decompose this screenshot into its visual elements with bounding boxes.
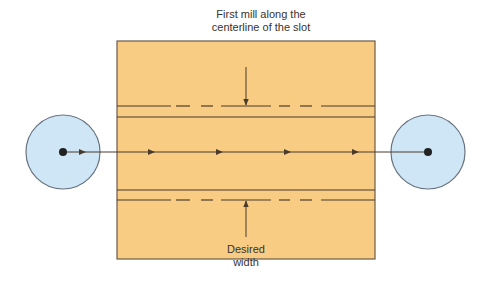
centerline-annotation-line2: centerline of the slot	[196, 21, 326, 34]
desired-width-annotation-line2: width	[216, 256, 276, 269]
centerline-annotation-line1: First mill along the	[196, 8, 326, 21]
desired-width-annotation-line1: Desired	[216, 243, 276, 256]
centerline-annotation: First mill along the centerline of the s…	[196, 8, 326, 34]
desired-width-annotation: Desired width	[216, 243, 276, 269]
cutter-end-center-dot	[424, 148, 432, 156]
cutter-start-center-dot	[59, 148, 67, 156]
